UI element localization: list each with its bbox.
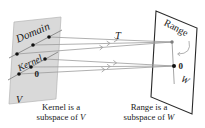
caption-right-line2-text: subspace of: [124, 112, 165, 122]
range-image-point: [170, 40, 173, 43]
domain-point-3: [47, 35, 51, 39]
zero-label-right: 0: [179, 61, 184, 71]
zero-label-left: 0: [35, 69, 40, 79]
zero-point-w: [172, 64, 176, 68]
transformation-label: T: [115, 30, 122, 41]
caption-left-line2: subspace ofV: [37, 112, 87, 122]
kernel-point-3: [43, 57, 47, 61]
caption-right-line2: subspace ofW: [124, 112, 175, 122]
caption-right-line1: Range is a: [131, 102, 168, 112]
caption-left-line2-text: subspace of: [37, 112, 78, 122]
map-arrow-domain-3: [49, 37, 172, 42]
caption-left-line1: Kernel is a: [42, 102, 80, 112]
domain-point-1: [15, 52, 19, 56]
caption-right-line2-var: W: [167, 112, 175, 122]
diagram-svg: Domain Kernel 0 V T Range 0 W Kernel is …: [0, 0, 205, 128]
domain-point-2: [31, 43, 35, 47]
caption-left-line2-var: V: [80, 112, 87, 122]
figure-canvas: Domain Kernel 0 V T Range 0 W Kernel is …: [0, 0, 205, 128]
